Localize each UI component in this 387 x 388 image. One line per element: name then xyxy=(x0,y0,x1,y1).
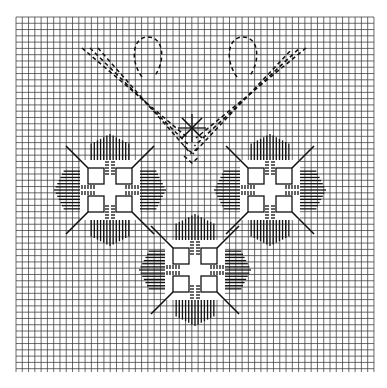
diagonal-spoke xyxy=(66,146,88,168)
dashed-vine-stitches xyxy=(82,37,306,163)
center-star xyxy=(178,114,206,142)
dashed-stitch-row xyxy=(98,48,191,154)
dashed-stitch-row xyxy=(193,51,290,154)
dashed-stitch-row xyxy=(90,48,190,146)
needlepoint-chart xyxy=(0,0,387,388)
diagonal-spoke xyxy=(292,146,314,168)
right-loop xyxy=(229,37,256,77)
